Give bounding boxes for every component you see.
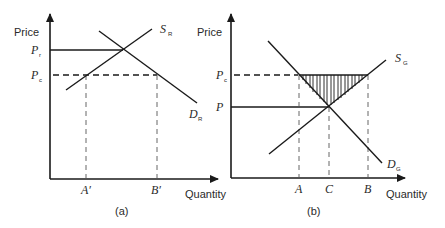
svg-text:D: D: [188, 107, 198, 121]
caption-a: (a): [115, 205, 128, 217]
quantity-label-a-prime: A′: [80, 183, 91, 197]
x-axis-label-b: Quantity: [386, 188, 427, 200]
svg-text:P: P: [215, 68, 224, 82]
svg-text:R: R: [168, 31, 173, 37]
svg-text:S: S: [395, 51, 401, 65]
y-axis-label-b: Price: [197, 26, 222, 38]
svg-text:P: P: [30, 43, 39, 57]
x-axis-label-a: Quantity: [185, 188, 226, 200]
label-sr: S R: [160, 22, 173, 37]
demand-curve-dr: [99, 31, 197, 103]
price-control-diagram: Price Quantity P r P c S R D R: [0, 0, 445, 228]
panel-b: Price Quantity P c P: [197, 14, 427, 217]
demand-curve-dg: [268, 41, 382, 163]
svg-text:G: G: [396, 166, 401, 172]
svg-text:P: P: [30, 68, 39, 82]
svg-text:R: R: [198, 116, 203, 122]
label-sg: S G: [395, 51, 408, 66]
panel-a: Price Quantity P r P c S R D R: [14, 14, 226, 217]
y-axis-label-a: Price: [14, 26, 39, 38]
quantity-label-a: A: [294, 182, 303, 196]
caption-b: (b): [307, 205, 320, 217]
quantity-label-b: B: [364, 182, 372, 196]
svg-text:S: S: [160, 22, 166, 36]
quantity-label-c: C: [325, 182, 334, 196]
svg-text:c: c: [224, 77, 227, 83]
quantity-label-b-prime: B′: [151, 183, 161, 197]
price-label-p: P: [215, 100, 224, 114]
price-label-pc-a: P c: [30, 68, 42, 83]
label-dg: D G: [386, 157, 401, 172]
svg-text:D: D: [386, 157, 396, 171]
svg-text:G: G: [403, 60, 408, 66]
label-dr: D R: [188, 107, 203, 122]
svg-text:c: c: [39, 77, 42, 83]
shortage-hatched-area: [299, 75, 368, 105]
price-label-pr: P r: [30, 43, 41, 58]
svg-text:r: r: [39, 52, 41, 58]
price-label-pc-b: P c: [215, 68, 227, 83]
